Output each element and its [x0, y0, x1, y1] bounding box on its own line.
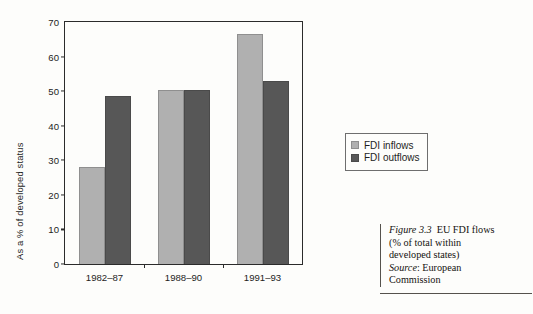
bars-layer: [65, 22, 302, 264]
bar-group: [158, 22, 210, 264]
caption-bottom-rule: [380, 293, 532, 294]
legend-item-outflows: FDI outflows: [351, 152, 420, 163]
bar-chart: As a % of developed status 0102030405060…: [0, 0, 320, 300]
x-tick-label: 1988–90: [165, 272, 202, 283]
legend-label-inflows: FDI inflows: [364, 140, 413, 151]
caption-source-label: Source: [389, 262, 417, 273]
bar-outflows: [105, 96, 131, 264]
bar-inflows: [158, 90, 184, 264]
figure-caption: Figure 3.3 EU FDI flows (% of total with…: [380, 224, 533, 287]
legend-item-inflows: FDI inflows: [351, 140, 420, 151]
bar-outflows: [184, 90, 210, 264]
y-axis-title: As a % of developed status: [14, 60, 25, 260]
caption-figure-title: EU FDI flows: [437, 224, 495, 235]
bar-inflows: [237, 34, 263, 264]
bar-group: [237, 22, 289, 264]
x-tick-label: 1991–93: [244, 272, 281, 283]
bar-inflows: [79, 167, 105, 264]
legend-swatch-inflows: [351, 141, 359, 149]
x-tick-label: 1982–87: [86, 272, 123, 283]
y-tick-label: 70: [48, 17, 65, 28]
bar-group: [79, 22, 131, 264]
legend-label-outflows: FDI outflows: [364, 152, 420, 163]
caption-line-2: (% of total within: [389, 237, 461, 248]
figure-page: As a % of developed status 0102030405060…: [0, 0, 533, 314]
chart-legend: FDI inflows FDI outflows: [345, 133, 428, 171]
bar-outflows: [263, 81, 289, 264]
caption-source-line-2: Commission: [389, 274, 441, 285]
legend-swatch-outflows: [351, 154, 359, 162]
caption-source-text: : European: [417, 262, 461, 273]
x-tick-mark: [144, 264, 145, 268]
caption-line-3: developed states): [389, 249, 459, 260]
caption-figure-number: Figure 3.3: [389, 224, 432, 235]
x-tick-mark: [223, 264, 224, 268]
plot-area: 010203040506070 1982–871988–901991–93: [64, 21, 303, 265]
